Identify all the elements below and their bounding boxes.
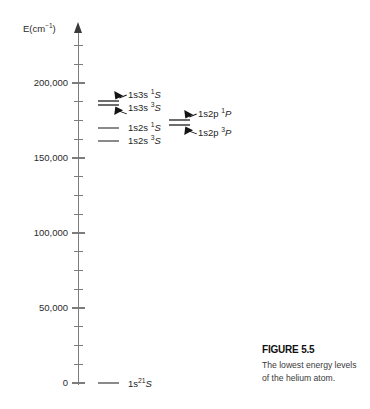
y-axis-tick-200000 [72, 82, 85, 83]
y-axis-tick-25000 [74, 345, 83, 346]
level-line-1s2-1S [98, 382, 119, 384]
level-label-1s2-1S-config: 1s [128, 378, 138, 389]
level-label-1s2s-1S: 1s2s 1S [128, 121, 161, 133]
y-axis-tick-175000 [74, 120, 83, 121]
level-label-1s3s-1S-term: S [155, 89, 161, 100]
level-label-1s2p-1P: 1s2p 1P [198, 107, 231, 119]
level-line-1s2s-1S [98, 127, 119, 129]
y-axis-tick-162500 [74, 139, 83, 140]
level-label-1s3s-1S-config: 1s3s [128, 89, 151, 100]
pointer-leader-1s2p-3P [189, 131, 197, 135]
level-label-1s2s-3S-term: S [155, 135, 161, 146]
y-axis-tick-150000 [72, 157, 85, 158]
figure-caption-title: FIGURE 5.5 [262, 344, 366, 355]
y-axis-tick-0 [72, 382, 85, 383]
energy-level-diagram: E(cm−1) 200,000150,000100,00050,0000 1s3… [0, 0, 370, 409]
level-label-1s2s-3S-config: 1s2s [128, 135, 151, 146]
figure-caption-text: The lowest energy levels of the helium a… [262, 359, 366, 384]
y-axis-tick-125000 [74, 195, 83, 196]
y-axis-tick-87500 [74, 251, 83, 252]
level-label-1s3s-1S: 1s3s 1S [128, 88, 161, 100]
level-label-1s3s-3S: 1s3s 3S [128, 101, 161, 113]
level-label-1s2p-3P-term: P [225, 127, 231, 138]
level-label-1s2s-3S: 1s2s 3S [128, 134, 161, 146]
figure-caption: FIGURE 5.5 The lowest energy levels of t… [262, 344, 366, 384]
y-axis-tick-62500 [74, 289, 83, 290]
y-axis-tick-50000 [72, 307, 85, 308]
y-axis-tick-75000 [74, 270, 83, 271]
level-label-1s2p-3P: 1s2p 3P [198, 126, 231, 138]
y-axis-tick-label-150000: 150,000 [8, 152, 68, 163]
y-axis-tick-label-100000: 100,000 [8, 227, 68, 238]
y-axis-label-exponent: −1 [45, 22, 52, 29]
y-axis-tick-label-0: 0 [8, 377, 68, 388]
level-label-1s2-1S-term: S [146, 378, 152, 389]
y-axis-line [78, 33, 79, 385]
y-axis-tick-212500 [74, 64, 83, 65]
y-axis-tick-100000 [72, 232, 85, 233]
y-axis-tick-225000 [74, 45, 83, 46]
y-axis-tick-112500 [74, 214, 83, 215]
y-axis-tick-label-200000: 200,000 [8, 77, 68, 88]
level-label-1s2-1S: 1s21S [128, 377, 152, 389]
pointer-leader-1s3s-3S [119, 111, 127, 115]
level-label-1s2s-1S-term: S [155, 122, 161, 133]
level-label-1s2s-1S-config: 1s2s [128, 122, 151, 133]
y-axis-tick-12500 [74, 364, 83, 365]
y-axis-label: E(cm−1) [23, 22, 56, 34]
y-axis-tick-label-50000: 50,000 [8, 302, 68, 313]
y-axis-label-close: ) [53, 23, 56, 34]
level-label-1s3s-3S-term: S [155, 102, 161, 113]
y-axis-tick-187500 [74, 101, 83, 102]
y-axis-tick-137500 [74, 176, 83, 177]
level-line-1s2s-3S [98, 140, 119, 142]
y-axis-label-main: E(cm [23, 23, 45, 34]
level-label-1s2p-1P-term: P [225, 108, 231, 119]
level-label-1s2p-1P-config: 1s2p [198, 108, 221, 119]
level-label-1s2p-3P-config: 1s2p [198, 127, 221, 138]
y-axis-tick-37500 [74, 326, 83, 327]
level-label-1s3s-3S-config: 1s3s [128, 102, 151, 113]
axis-arrow-up-icon [74, 22, 82, 33]
